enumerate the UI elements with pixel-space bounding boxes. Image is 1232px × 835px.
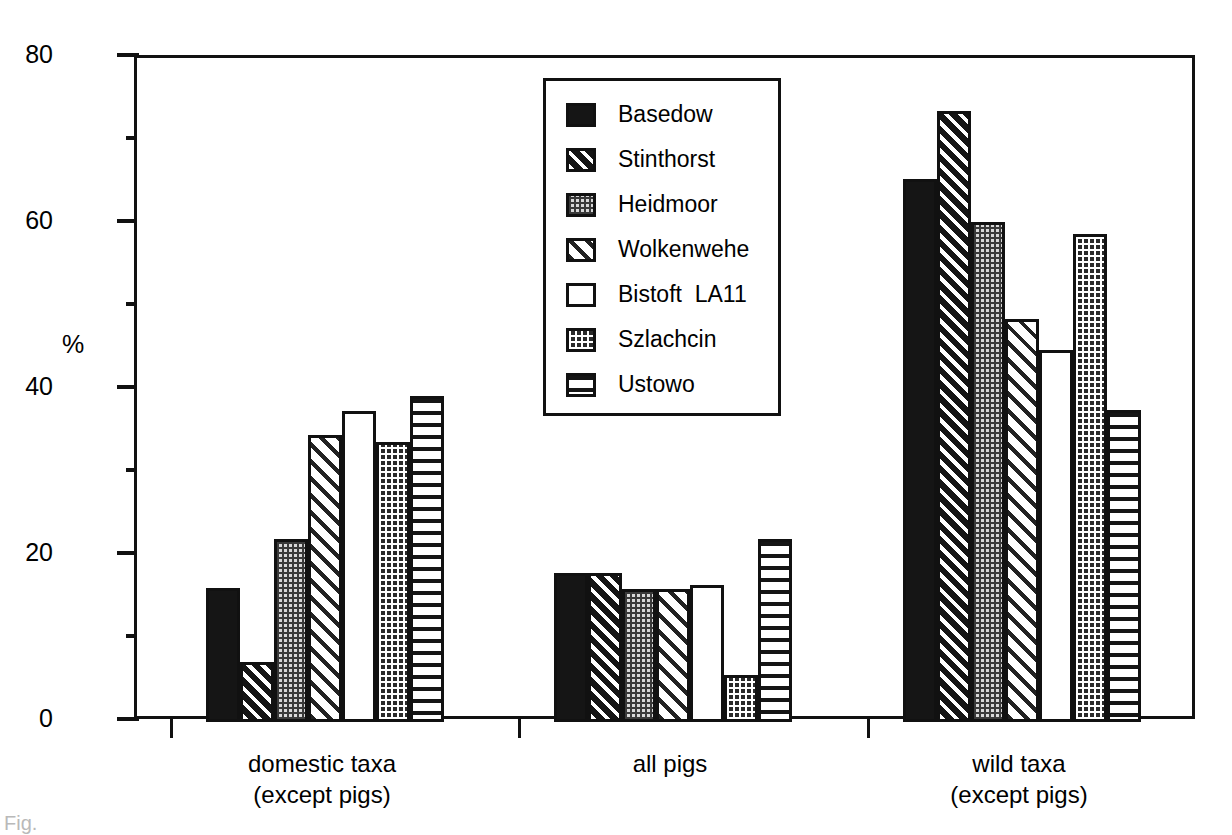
- bar: [656, 589, 690, 722]
- legend-label: Szlachcin: [618, 328, 716, 351]
- x-category-label-line2: (except pigs): [869, 779, 1169, 810]
- bar: [690, 585, 724, 722]
- bar: [1005, 319, 1039, 722]
- bar: [903, 179, 937, 722]
- bar: [588, 573, 622, 722]
- legend-label: Ustowo: [618, 373, 695, 396]
- bar: [622, 589, 656, 722]
- y-tick-label: 0: [39, 706, 53, 731]
- x-tick: [867, 719, 870, 738]
- legend-item[interactable]: Heidmoor: [546, 182, 778, 227]
- legend-item[interactable]: Basedow: [546, 92, 778, 137]
- legend-item[interactable]: Szlachcin: [546, 317, 778, 362]
- y-tick-label: 40: [25, 374, 53, 399]
- figure-caption: Fig.: [4, 812, 37, 835]
- x-category-label: wild taxa(except pigs): [869, 748, 1169, 810]
- legend-swatch-icon: [566, 238, 596, 262]
- x-category-label-line1: all pigs: [633, 750, 708, 777]
- y-tick-label: 60: [25, 208, 53, 233]
- legend-swatch-icon: [566, 373, 596, 397]
- bar: [971, 222, 1005, 722]
- legend-swatch-icon: [566, 103, 596, 127]
- bar: [1107, 410, 1141, 722]
- x-category-label: domestic taxa(except pigs): [172, 748, 472, 810]
- y-axis-title: %: [62, 332, 84, 357]
- legend-item[interactable]: Ustowo: [546, 362, 778, 407]
- bar: [410, 396, 444, 722]
- legend-label: Wolkenwehe: [618, 238, 749, 261]
- bar: [308, 435, 342, 722]
- legend-swatch-icon: [566, 193, 596, 217]
- y-tick-label: 80: [25, 42, 53, 67]
- bar: [240, 662, 274, 722]
- x-category-label-line1: wild taxa: [972, 750, 1065, 777]
- legend-swatch-icon: [566, 328, 596, 352]
- x-category-label: all pigs: [520, 748, 820, 779]
- bar: [1039, 350, 1073, 722]
- bar: [724, 675, 758, 722]
- y-axis: [0, 0, 134, 835]
- legend-label: Bistoft LA11: [618, 283, 747, 306]
- legend-swatch-icon: [566, 283, 596, 307]
- x-tick: [170, 719, 173, 738]
- legend-item[interactable]: Wolkenwehe: [546, 227, 778, 272]
- bar: [554, 573, 588, 722]
- y-tick-label: 20: [25, 540, 53, 565]
- bar: [1073, 234, 1107, 722]
- bar: [937, 111, 971, 722]
- legend-item[interactable]: Stinthorst: [546, 137, 778, 182]
- x-category-label-line1: domestic taxa: [248, 750, 396, 777]
- bar: [274, 539, 308, 722]
- legend-swatch-icon: [566, 148, 596, 172]
- legend-item[interactable]: Bistoft LA11: [546, 272, 778, 317]
- legend: BasedowStinthorstHeidmoorWolkenweheBisto…: [543, 78, 781, 416]
- bar: [376, 442, 410, 722]
- bar: [342, 411, 376, 722]
- x-category-label-line2: (except pigs): [172, 779, 472, 810]
- bar: [758, 539, 792, 722]
- x-tick: [518, 719, 521, 738]
- legend-label: Stinthorst: [618, 148, 715, 171]
- legend-label: Basedow: [618, 103, 713, 126]
- legend-label: Heidmoor: [618, 193, 718, 216]
- chart-page: % BasedowStinthorstHeidmoorWolkenweheBis…: [0, 0, 1232, 835]
- bar: [206, 588, 240, 722]
